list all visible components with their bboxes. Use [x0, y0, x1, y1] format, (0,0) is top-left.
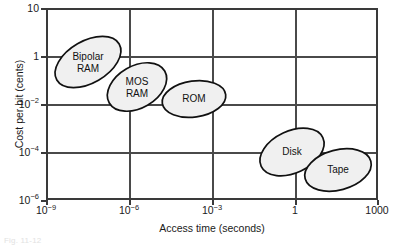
y-axis-tick	[41, 56, 46, 58]
x-tick-mantissa: 1	[292, 204, 298, 216]
y-tick-mantissa: 10	[19, 194, 31, 206]
y-axis-tick-label: 10	[27, 2, 39, 15]
figure-caption: Fig. 11-12	[4, 236, 41, 245]
x-tick-exponent: −9	[48, 203, 57, 212]
x-axis-tick-label: 10−6	[119, 204, 139, 217]
y-tick-mantissa: 1	[33, 50, 39, 62]
data-region-label-bipolar-ram: Bipolar RAM	[72, 51, 103, 74]
y-tick-exponent: −6	[30, 192, 39, 201]
gridline-horizontal	[48, 152, 376, 154]
y-axis-title: Cost per bit (cents)	[13, 29, 25, 179]
x-axis-title: Access time (seconds)	[46, 222, 378, 234]
x-axis-tick-label: 1000	[365, 204, 388, 217]
figure-container: 10 1 10−2 10−4 10−6 10−9 10−6 10−3 1 100…	[0, 0, 401, 247]
y-tick-exponent: −4	[30, 144, 39, 153]
y-axis-tick-label: 1	[33, 50, 39, 63]
gridline-horizontal	[48, 104, 376, 106]
x-axis-tick-label: 10−9	[36, 204, 56, 217]
x-axis-tick-label: 10−3	[202, 204, 222, 217]
y-axis-tick	[41, 200, 46, 202]
y-tick-mantissa: 10	[27, 2, 39, 14]
x-axis-tick-label: 1	[292, 204, 298, 217]
x-tick-exponent: −6	[131, 203, 140, 212]
y-axis-tick	[41, 104, 46, 106]
x-tick-mantissa: 10	[119, 204, 131, 216]
x-tick-mantissa: 1000	[365, 204, 388, 216]
y-axis-tick	[41, 152, 46, 154]
x-tick-mantissa: 10	[202, 204, 214, 216]
data-region-label-tape: Tape	[327, 164, 349, 176]
data-region-label-rom: ROM	[182, 93, 205, 105]
data-region-label-mos-ram: MOS RAM	[126, 76, 149, 99]
y-tick-exponent: −2	[30, 96, 39, 105]
x-tick-mantissa: 10	[36, 204, 48, 216]
y-axis-tick	[41, 8, 46, 10]
data-region-label-disk: Disk	[282, 146, 301, 158]
x-tick-exponent: −3	[214, 203, 223, 212]
